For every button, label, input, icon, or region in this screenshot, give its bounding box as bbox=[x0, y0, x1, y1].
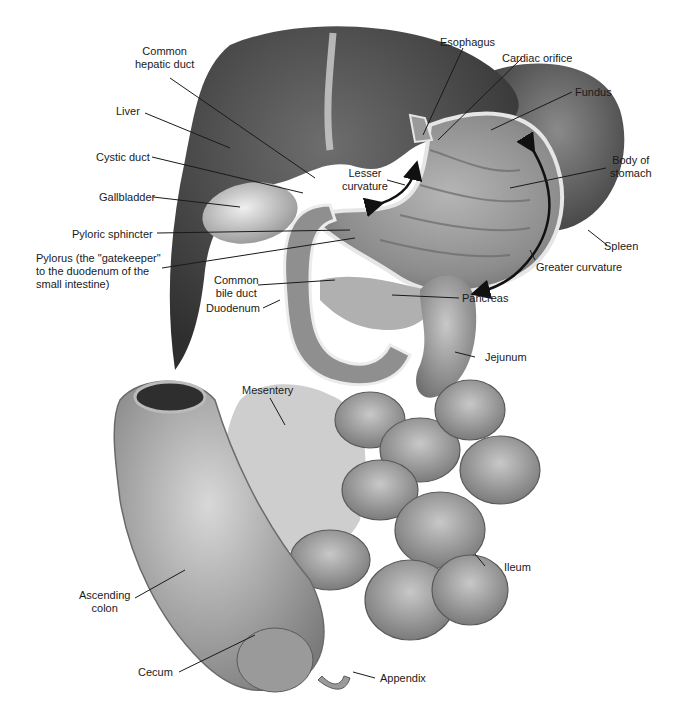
anatomy-figure: Common hepatic duct Liver Cystic duct Ga… bbox=[0, 0, 683, 723]
label-appendix: Appendix bbox=[380, 672, 426, 685]
label-mesentery: Mesentery bbox=[242, 384, 293, 397]
cecum-shape bbox=[237, 628, 313, 692]
label-ileum: Ileum bbox=[504, 561, 531, 574]
label-liver: Liver bbox=[116, 105, 140, 118]
label-body-of-stomach: Body of stomach bbox=[610, 154, 652, 180]
label-spleen: Spleen bbox=[604, 240, 638, 253]
label-pylorus: Pylorus (the "gatekeeper" to the duodenu… bbox=[36, 252, 161, 291]
label-lesser-curvature: Lesser curvature bbox=[342, 167, 388, 193]
label-fundus: Fundus bbox=[575, 86, 612, 99]
label-cardiac-orifice: Cardiac orifice bbox=[502, 52, 572, 65]
label-duodenum: Duodenum bbox=[206, 302, 260, 315]
label-greater-curvature: Greater curvature bbox=[536, 261, 622, 274]
label-ascending-colon: Ascending colon bbox=[79, 589, 130, 615]
label-jejunum: Jejunum bbox=[485, 351, 527, 364]
label-common-hepatic-duct: Common hepatic duct bbox=[135, 45, 194, 71]
appendix-shape bbox=[318, 676, 350, 689]
label-cystic-duct: Cystic duct bbox=[96, 151, 150, 164]
label-gallbladder: Gallbladder bbox=[99, 191, 155, 204]
label-esophagus: Esophagus bbox=[440, 36, 495, 49]
label-pyloric-sphincter: Pyloric sphincter bbox=[72, 228, 153, 241]
label-cecum: Cecum bbox=[138, 666, 173, 679]
label-pancreas: Pancreas bbox=[462, 292, 508, 305]
label-common-bile-duct: Common bile duct bbox=[214, 274, 259, 300]
colon-opening bbox=[135, 382, 205, 412]
